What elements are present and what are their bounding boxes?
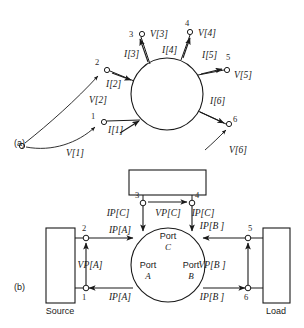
current-label-2: I[2] bbox=[105, 79, 122, 89]
voltage-label-b-2: VP[C] bbox=[155, 208, 181, 218]
current-label-b-1: IP[A] bbox=[108, 292, 131, 302]
block-label-load: Load bbox=[266, 306, 286, 316]
two-port-network-figure: 1I[1]V[1]2I[2]V[2]3I[3]V[3]4I[4]V[4]5I[5… bbox=[0, 0, 304, 328]
port-label-C: Port bbox=[160, 231, 177, 241]
panel-caption-a: (a) bbox=[14, 138, 25, 148]
terminal-node-5 bbox=[224, 67, 229, 72]
current-label-1: I[1] bbox=[107, 125, 124, 135]
terminal-number-b-2: 2 bbox=[82, 223, 86, 233]
voltage-label-3: V[3] bbox=[150, 29, 168, 39]
current-label-b-4: IP[C] bbox=[106, 208, 130, 218]
terminal-number-1: 1 bbox=[91, 111, 95, 121]
voltage-label-b-0: VP[A] bbox=[78, 260, 103, 270]
voltage-label-1: V[1] bbox=[66, 148, 84, 158]
terminal-node-b-6 bbox=[245, 285, 251, 291]
network-circle-a bbox=[131, 58, 203, 130]
terminal-node-b-1 bbox=[83, 285, 89, 291]
port-letter-C: C bbox=[165, 242, 172, 252]
voltage-label-6: V[6] bbox=[229, 145, 247, 155]
port-label-A: Port bbox=[140, 260, 157, 270]
terminal-number-b-3: 3 bbox=[135, 190, 139, 200]
terminal-node-6 bbox=[226, 121, 231, 126]
terminal-number-b-6: 6 bbox=[244, 292, 248, 302]
terminal-node-b-2 bbox=[83, 235, 89, 241]
current-label-3: I[3] bbox=[123, 49, 140, 59]
terminal-node-4 bbox=[187, 29, 192, 34]
terminal-node-2 bbox=[104, 67, 109, 72]
voltage-label-2: V[2] bbox=[89, 95, 107, 105]
port-label-B: Port bbox=[183, 260, 200, 270]
current-label-5: I[5] bbox=[201, 50, 218, 60]
current-label-b-3: IP[B ] bbox=[199, 292, 225, 302]
current-label-b-2: IP[B ] bbox=[199, 221, 225, 231]
current-label-b-0: IP[A] bbox=[108, 225, 131, 235]
panel-caption-b: (b) bbox=[14, 282, 25, 292]
terminal-number-3: 3 bbox=[129, 29, 133, 39]
port-letter-A: A bbox=[144, 271, 151, 281]
terminal-number-2: 2 bbox=[95, 57, 99, 67]
terminal-node-b-5 bbox=[245, 235, 251, 241]
terminal-node-b-3 bbox=[140, 200, 146, 206]
terminal-node-b-4 bbox=[189, 200, 195, 206]
terminal-node-3 bbox=[139, 31, 144, 36]
terminal-node-1 bbox=[101, 119, 106, 124]
terminal-number-b-5: 5 bbox=[248, 223, 252, 233]
terminal-number-b-1: 1 bbox=[82, 292, 86, 302]
current-label-b-5: IP[C] bbox=[191, 208, 215, 218]
current-label-4: I[4] bbox=[161, 45, 178, 55]
terminal-number-5: 5 bbox=[226, 52, 230, 62]
voltage-label-5: V[5] bbox=[234, 70, 252, 80]
block-label-source: Source bbox=[46, 306, 75, 316]
block-load bbox=[263, 228, 290, 303]
current-label-6: I[6] bbox=[209, 96, 226, 106]
voltage-label-b-1: VP[B ] bbox=[198, 260, 225, 270]
port-letter-B: B bbox=[188, 271, 194, 281]
voltage-label-4: V[4] bbox=[198, 28, 216, 38]
terminal-number-6: 6 bbox=[233, 114, 237, 124]
block-source bbox=[46, 228, 75, 303]
